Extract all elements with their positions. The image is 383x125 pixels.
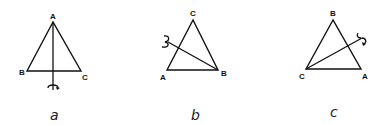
vertex-label-top: A — [50, 12, 56, 21]
triangle-a — [27, 22, 81, 71]
vertex-label-top: C — [190, 9, 196, 18]
triangle-symmetry-diagram: A B C a C A B b B C A c — [0, 0, 383, 125]
triangle-c — [306, 20, 361, 69]
vertex-label-top: B — [330, 9, 336, 18]
vertex-label-left: C — [299, 72, 305, 81]
figure-label: c — [330, 104, 338, 120]
vertex-label-left: B — [19, 68, 25, 77]
figure-b: C A B b — [160, 9, 227, 123]
vertex-label-right: C — [82, 73, 88, 82]
figure-label: b — [191, 107, 200, 123]
figure-label: a — [50, 107, 59, 123]
figure-a: A B C a — [19, 12, 88, 123]
vertex-label-right: A — [362, 72, 368, 81]
rotation-arrow-icon — [162, 36, 169, 47]
vertex-label-right: B — [221, 69, 227, 78]
vertex-label-left: A — [160, 73, 166, 82]
figure-c: B C A c — [299, 9, 368, 120]
